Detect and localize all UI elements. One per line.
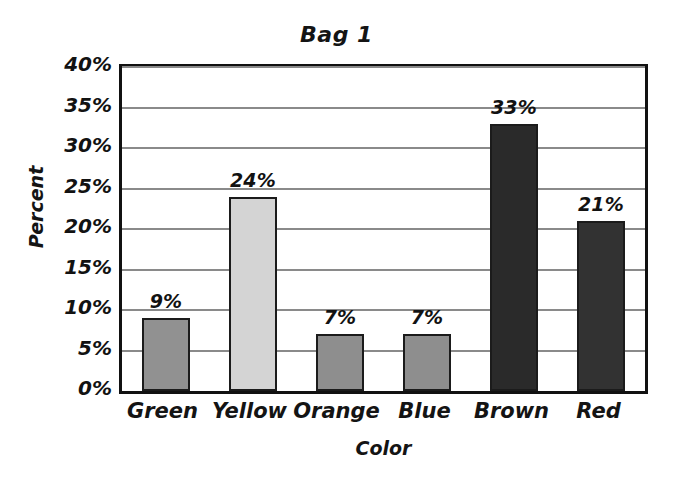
y-tick-label: 35% bbox=[40, 93, 112, 117]
gridline bbox=[122, 147, 645, 149]
x-axis-tick-labels: GreenYellowOrangeBlueBrownRed bbox=[119, 399, 648, 433]
y-tick-label: 25% bbox=[40, 174, 112, 198]
bar-red[interactable] bbox=[577, 221, 625, 391]
x-axis-title: Color bbox=[119, 437, 648, 459]
x-tick-label-red: Red bbox=[545, 399, 652, 423]
y-tick-label: 20% bbox=[40, 214, 112, 238]
bar-value-label-yellow: 24% bbox=[211, 169, 295, 191]
bar-value-label-blue: 7% bbox=[385, 306, 469, 328]
chart-title: Bag 1 bbox=[0, 22, 673, 47]
gridline bbox=[122, 66, 645, 68]
bar-yellow[interactable] bbox=[229, 197, 277, 391]
y-axis-tick-labels: 0%5%10%15%20%25%30%35%40% bbox=[34, 64, 112, 394]
plot-inner: 9%24%7%7%33%21% bbox=[122, 67, 645, 391]
bar-green[interactable] bbox=[142, 318, 190, 391]
y-tick-label: 10% bbox=[40, 295, 112, 319]
plot-area: 9%24%7%7%33%21% bbox=[119, 64, 648, 394]
bar-blue[interactable] bbox=[403, 334, 451, 391]
y-tick-label: 15% bbox=[40, 255, 112, 279]
y-tick-label: 5% bbox=[40, 336, 112, 360]
y-tick-label: 40% bbox=[40, 52, 112, 76]
gridline bbox=[122, 107, 645, 109]
gridline bbox=[122, 188, 645, 190]
gridline bbox=[122, 269, 645, 271]
gridline bbox=[122, 350, 645, 352]
y-tick-label: 0% bbox=[40, 376, 112, 400]
bar-chart: Bag 1 Percent 0%5%10%15%20%25%30%35%40% … bbox=[0, 0, 673, 488]
bar-value-label-brown: 33% bbox=[472, 96, 556, 118]
bar-value-label-red: 21% bbox=[559, 193, 643, 215]
bar-value-label-green: 9% bbox=[124, 290, 208, 312]
bar-orange[interactable] bbox=[316, 334, 364, 391]
bar-brown[interactable] bbox=[490, 124, 538, 391]
bar-value-label-orange: 7% bbox=[298, 306, 382, 328]
gridline bbox=[122, 228, 645, 230]
y-tick-label: 30% bbox=[40, 133, 112, 157]
